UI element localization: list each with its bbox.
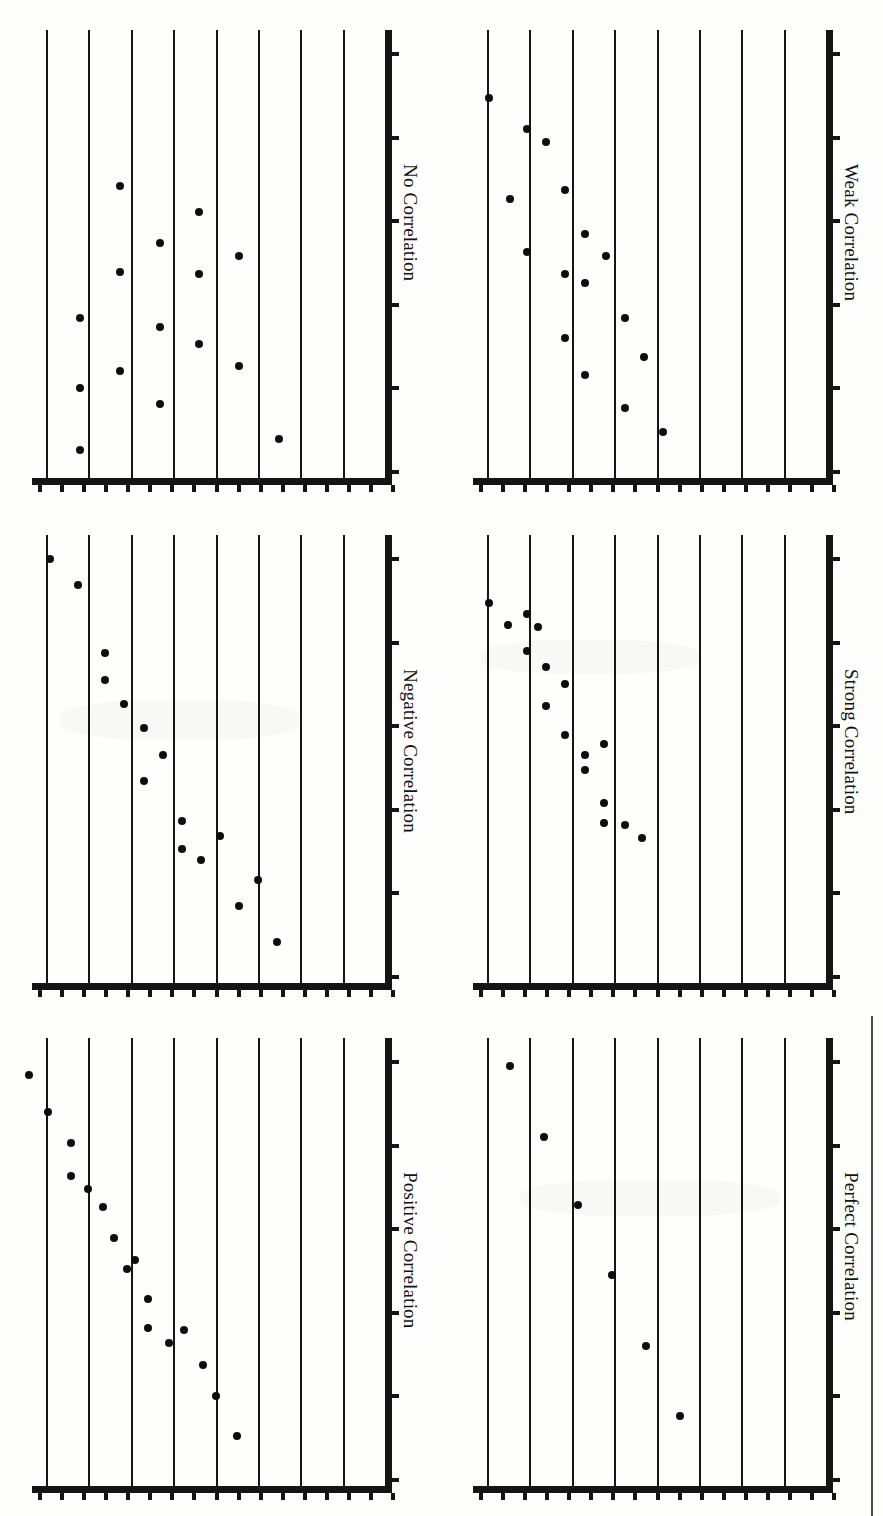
category-axis-tick [479,485,483,492]
data-point [506,195,514,203]
category-axis-tick [38,990,42,997]
category-axis-tick [325,990,329,997]
category-axis [32,983,392,990]
data-point [542,702,550,710]
value-axis-tick [833,1144,840,1148]
category-axis-tick [722,485,726,492]
value-axis [385,535,392,990]
category-axis-tick [237,1493,241,1500]
category-axis-tick [303,1493,307,1500]
data-point [131,1256,139,1264]
data-point [235,252,243,260]
data-point [46,555,54,563]
category-axis-tick [545,1493,549,1500]
data-point [676,1412,684,1420]
category-axis-tick [810,990,814,997]
data-point [561,186,569,194]
category-axis-tick [810,485,814,492]
category-axis [473,983,833,990]
category-axis-tick [523,990,527,997]
data-point [76,446,84,454]
gridline [529,535,531,983]
value-axis-tick [392,1144,399,1148]
value-axis [826,535,833,990]
category-axis-tick [82,485,86,492]
data-point [74,581,82,589]
data-point [542,663,550,671]
value-axis-tick [833,219,840,223]
category-axis-tick [744,990,748,997]
gridline [46,1038,48,1486]
category-axis-tick [60,485,64,492]
data-point [101,676,109,684]
category-axis-tick [633,990,637,997]
category-axis-tick [325,485,329,492]
category-axis-tick [656,990,660,997]
gridline [614,1038,616,1486]
category-axis-tick [722,990,726,997]
data-point [195,340,203,348]
data-point [84,1185,92,1193]
data-point [621,404,629,412]
category-axis-tick [148,990,152,997]
gridline [300,535,302,983]
data-point [561,680,569,688]
category-axis-tick [237,990,241,997]
data-point [640,353,648,361]
data-point [540,1133,548,1141]
scatter-panel-no-correlation: No Correlation [14,14,434,506]
category-axis-tick [700,1493,704,1500]
gridline [216,1038,218,1486]
data-point [600,799,608,807]
category-axis-tick [104,485,108,492]
data-point [165,1339,173,1347]
category-axis-tick [82,990,86,997]
category-axis-tick [589,1493,593,1500]
category-axis-tick [832,990,836,997]
data-point [156,239,164,247]
data-point [156,400,164,408]
data-point [506,1062,514,1070]
category-axis-tick [170,1493,174,1500]
data-point [120,700,128,708]
gridline [741,1038,743,1486]
value-axis-tick [392,1227,399,1231]
value-axis-tick [392,470,399,474]
category-axis-tick [479,990,483,997]
data-point [116,367,124,375]
gridline [343,30,345,478]
category-axis-tick [215,990,219,997]
data-point [123,1265,131,1273]
data-point [621,821,629,829]
data-point [116,268,124,276]
category-axis-tick [766,990,770,997]
panel-title-strong-correlation: Strong Correlation [840,669,862,815]
category-axis-tick [259,990,263,997]
gridline [699,535,701,983]
gridline [88,1038,90,1486]
value-axis-tick [392,52,399,56]
data-point [140,724,148,732]
value-axis-tick [833,557,840,561]
category-axis-tick [38,1493,42,1500]
gridline [46,535,48,983]
data-point [195,270,203,278]
data-point [574,1201,582,1209]
value-axis-tick [833,470,840,474]
data-point [212,1392,220,1400]
value-axis-tick [833,724,840,728]
gridline [131,535,133,983]
gridline [614,30,616,478]
gridline [88,535,90,983]
scatter-panel-strong-correlation: Strong Correlation [455,519,875,1011]
data-point [140,777,148,785]
data-point [523,125,531,133]
category-axis-tick [700,990,704,997]
data-point [101,649,109,657]
category-axis-tick [611,485,615,492]
category-axis-tick [810,1493,814,1500]
category-axis-tick [126,1493,130,1500]
category-axis-tick [501,990,505,997]
category-axis-tick [633,485,637,492]
category-axis-tick [60,1493,64,1500]
